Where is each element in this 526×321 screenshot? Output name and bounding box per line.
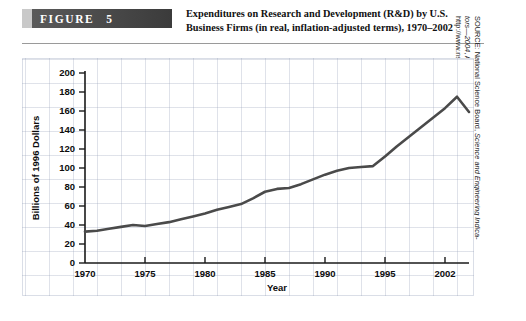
header-divider: [22, 43, 484, 44]
x-tick-label: 1975: [134, 268, 156, 279]
y-tick-label: 100: [59, 162, 75, 173]
x-tick-label: 2002: [434, 268, 455, 279]
y-tick-label: 140: [59, 124, 75, 135]
data-series-line: [85, 97, 469, 232]
chart-panel: 020406080100120140160180200 197019751980…: [22, 58, 474, 296]
y-tick-label: 0: [70, 257, 75, 268]
y-axis-ticks: 020406080100120140160180200: [59, 67, 85, 268]
x-tick-label: 1995: [374, 268, 396, 279]
line-chart: 020406080100120140160180200 197019751980…: [23, 59, 475, 297]
y-tick-label: 180: [59, 86, 75, 97]
figure-number: 5: [106, 13, 112, 25]
x-axis-title: Year: [267, 282, 287, 293]
x-axis-ticks: 1970197519801985199019952002: [74, 257, 455, 279]
y-axis-title: Billions of 1996 Dollars: [30, 116, 41, 221]
figure-tag-banner: FIGURE 5: [22, 9, 172, 28]
y-tick-label: 20: [64, 238, 75, 249]
y-tick-label: 80: [64, 181, 75, 192]
source-line-2-italic: tors—2004: [463, 16, 472, 52]
x-tick-label: 1970: [74, 268, 95, 279]
figure-label: FIGURE: [40, 13, 94, 25]
y-tick-label: 120: [59, 143, 75, 154]
x-tick-label: 1980: [194, 268, 215, 279]
figure-page: FIGURE 5 Expenditures on Research and De…: [0, 0, 526, 321]
y-tick-label: 60: [64, 200, 75, 211]
y-tick-label: 160: [59, 105, 75, 116]
y-tick-label: 40: [64, 219, 75, 230]
x-tick-label: 1985: [254, 268, 276, 279]
y-tick-label: 200: [59, 67, 75, 78]
x-tick-label: 1990: [314, 268, 335, 279]
